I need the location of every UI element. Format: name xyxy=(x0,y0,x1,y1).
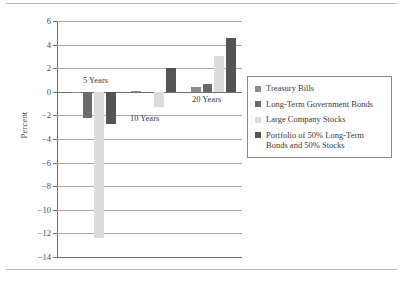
figure-root: Percent 6420−2−4−6−8−10−12−14 Treasury B… xyxy=(0,0,403,283)
y-tick-0 xyxy=(53,92,57,93)
legend-swatch-icon xyxy=(255,101,261,107)
y-tick--14 xyxy=(53,257,57,258)
bar-20-years-series-2 xyxy=(214,56,224,92)
y-tick--8 xyxy=(53,186,57,187)
y-tick-label--8: −8 xyxy=(42,181,51,191)
legend-label: Portfolio of 50% Long-Term Bonds and 50%… xyxy=(266,130,385,151)
y-tick--6 xyxy=(53,163,57,164)
bar-chart: Percent 6420−2−4−6−8−10−12−14 Treasury B… xyxy=(0,0,403,283)
chart-legend: Treasury BillsLong-Term Government Bonds… xyxy=(247,76,392,158)
bar-20-years-series-0 xyxy=(191,87,201,92)
y-tick-4 xyxy=(53,45,57,46)
bar-5-years-series-3 xyxy=(106,92,116,124)
y-tick-label-6: 6 xyxy=(47,16,51,26)
y-tick-6 xyxy=(53,21,57,22)
group-label-20-years: 20 Years xyxy=(192,94,221,104)
legend-label: Treasury Bills xyxy=(266,83,314,94)
y-tick-label--6: −6 xyxy=(42,158,51,168)
legend-item-2[interactable]: Large Company Stocks xyxy=(255,114,385,125)
y-tick--10 xyxy=(53,210,57,211)
y-tick--4 xyxy=(53,139,57,140)
legend-item-3[interactable]: Portfolio of 50% Long-Term Bonds and 50%… xyxy=(255,130,385,151)
legend-swatch-icon xyxy=(255,117,261,123)
y-axis-title: Percent xyxy=(19,95,29,155)
y-tick--12 xyxy=(53,233,57,234)
plot-area: 6420−2−4−6−8−10−12−14 xyxy=(57,21,242,257)
legend-item-0[interactable]: Treasury Bills xyxy=(255,83,385,94)
y-tick-label--10: −10 xyxy=(38,205,51,215)
gridline--14 xyxy=(57,257,242,258)
y-tick-2 xyxy=(53,68,57,69)
y-tick-label-2: 2 xyxy=(47,63,51,73)
y-tick--2 xyxy=(53,115,57,116)
gridline--10 xyxy=(57,210,242,211)
bar-10-years-series-3 xyxy=(166,68,176,92)
bar-5-years-series-0 xyxy=(71,92,81,93)
legend-label: Long-Term Government Bonds xyxy=(266,99,373,110)
legend-swatch-icon xyxy=(255,132,261,138)
bar-5-years-series-1 xyxy=(83,92,93,118)
bar-10-years-series-2 xyxy=(154,92,164,107)
y-tick-label--14: −14 xyxy=(38,252,51,262)
y-tick-label-0: 0 xyxy=(47,87,51,97)
y-tick-label--12: −12 xyxy=(38,228,51,238)
bar-20-years-series-3 xyxy=(226,38,236,92)
gridline-6 xyxy=(57,21,242,22)
group-label-10-years: 10 Years xyxy=(130,113,159,123)
bar-10-years-series-0 xyxy=(131,91,141,92)
gridline--4 xyxy=(57,139,242,140)
bar-20-years-series-1 xyxy=(203,84,213,92)
gridline--8 xyxy=(57,186,242,187)
gridline--6 xyxy=(57,163,242,164)
legend-swatch-icon xyxy=(255,86,261,92)
gridline--12 xyxy=(57,233,242,234)
bar-5-years-series-2 xyxy=(94,92,104,238)
gridline-4 xyxy=(57,45,242,46)
y-tick-label--2: −2 xyxy=(42,110,51,120)
legend-item-1[interactable]: Long-Term Government Bonds xyxy=(255,99,385,110)
y-tick-label--4: −4 xyxy=(42,134,51,144)
bar-10-years-series-1 xyxy=(143,92,153,93)
legend-label: Large Company Stocks xyxy=(266,114,346,125)
y-tick-label-4: 4 xyxy=(47,40,51,50)
group-label-5-years: 5 Years xyxy=(83,75,108,85)
